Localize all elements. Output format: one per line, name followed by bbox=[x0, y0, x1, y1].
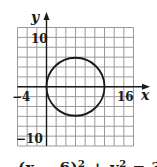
eq-exponent: 2 bbox=[78, 158, 85, 167]
equation-caption: (x − 6)2 + y2 = 36 bbox=[18, 158, 157, 167]
coordinate-plot: y x 10 −10 −4 16 bbox=[0, 0, 157, 167]
x-tick-16: 16 bbox=[117, 90, 134, 104]
eq-part: (x − 6) bbox=[18, 159, 78, 167]
y-tick-10: 10 bbox=[31, 32, 48, 46]
y-axis-label: y bbox=[30, 9, 40, 25]
eq-part: = 36 bbox=[127, 159, 157, 167]
eq-part: + y bbox=[86, 159, 120, 167]
eq-exponent: 2 bbox=[119, 158, 126, 167]
x-axis-label: x bbox=[140, 87, 150, 103]
y-tick-neg10: −10 bbox=[16, 132, 43, 146]
x-tick-neg4: −4 bbox=[12, 90, 30, 104]
